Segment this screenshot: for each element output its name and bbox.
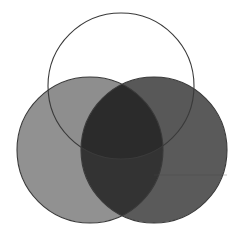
venn-diagram-canvas — [0, 0, 241, 239]
venn-diagram — [0, 0, 241, 239]
